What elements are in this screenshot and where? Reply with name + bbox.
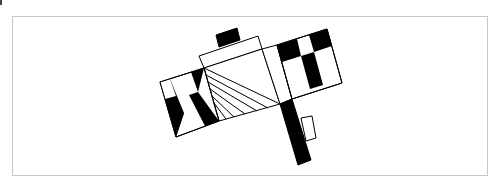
- diagram-canvas: [0, 0, 495, 189]
